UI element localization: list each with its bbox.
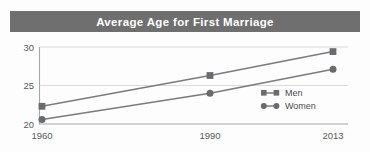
legend-women-circle-icon bbox=[261, 103, 267, 109]
plot-area: 30 25 20 1960 1990 2013 bbox=[0, 32, 370, 152]
legend-entry-men[interactable]: Men bbox=[261, 88, 303, 98]
chart-legend: Men Women bbox=[261, 88, 316, 111]
legend-men-square-icon-2 bbox=[274, 90, 280, 96]
series-women-point-2013 bbox=[330, 66, 337, 73]
chart-title-band: Average Age for First Marriage bbox=[10, 11, 360, 32]
x-tick-label-1960: 1960 bbox=[31, 130, 52, 141]
legend-label-women: Women bbox=[285, 101, 316, 111]
line-chart-svg: 30 25 20 1960 1990 2013 bbox=[0, 32, 370, 152]
y-tick-label-20: 20 bbox=[23, 119, 34, 130]
x-tick-label-2013: 2013 bbox=[322, 130, 343, 141]
series-women-point-1990 bbox=[207, 90, 214, 97]
legend-label-men: Men bbox=[285, 88, 303, 98]
page-title: Average Age for First Marriage bbox=[96, 16, 274, 28]
chart-figure: Average Age for First Marriage 30 25 20 … bbox=[0, 0, 370, 152]
legend-women-circle-icon-2 bbox=[273, 103, 279, 109]
series-men-point-1960 bbox=[39, 103, 46, 110]
series-men-point-1990 bbox=[207, 72, 214, 79]
series-women-point-1960 bbox=[39, 116, 46, 123]
series-men-point-2013 bbox=[330, 48, 337, 55]
legend-entry-women[interactable]: Women bbox=[261, 101, 316, 111]
y-tick-label-30: 30 bbox=[23, 42, 34, 53]
y-tick-label-25: 25 bbox=[23, 80, 34, 91]
legend-men-square-icon bbox=[261, 90, 267, 96]
x-tick-label-1990: 1990 bbox=[199, 130, 220, 141]
